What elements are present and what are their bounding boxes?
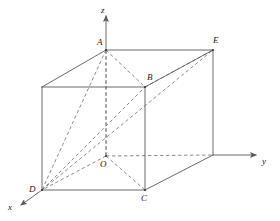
- axis-label-x: x: [8, 203, 12, 212]
- vertex-point-B: [144, 86, 146, 88]
- diagonal-D-to-E: [42, 50, 213, 190]
- vertex-label-A: A: [97, 38, 103, 47]
- vertex-point-C: [144, 189, 146, 191]
- top-left-diagonal-edge: [42, 50, 106, 87]
- vertex-label-B: B: [147, 73, 153, 82]
- y-axis-segment-O-to-back-right: [106, 155, 213, 156]
- axis-label-y: y: [262, 157, 266, 166]
- dashed-edge-group: [42, 50, 213, 190]
- axis-line-group: [21, 16, 256, 205]
- diagonal-A-to-B: [106, 50, 145, 87]
- vertex-label-E: E: [213, 36, 219, 45]
- diagonal-A-to-D: [42, 50, 106, 190]
- vertex-label-C: C: [141, 194, 147, 203]
- top-front-right-diagonal-edge: [145, 50, 213, 87]
- bottom-back-edge-O-to-C: [106, 156, 145, 190]
- vertex-point-O: [105, 155, 107, 157]
- vertex-label-D: D: [29, 185, 36, 194]
- vertex-point-D: [41, 189, 43, 191]
- axis-label-z: z: [101, 6, 105, 15]
- vertex-point-A: [105, 49, 107, 51]
- diagonal-D-to-B: [42, 87, 145, 190]
- vertex-point-E: [212, 49, 214, 51]
- bottom-right-diagonal-edge: [145, 155, 213, 190]
- geometry-figure: A B C D E O x y z: [0, 0, 280, 221]
- geometry-canvas: [0, 0, 280, 221]
- vertex-label-O: O: [100, 160, 107, 169]
- bottom-back-left-edge-O-to-D: [42, 156, 106, 190]
